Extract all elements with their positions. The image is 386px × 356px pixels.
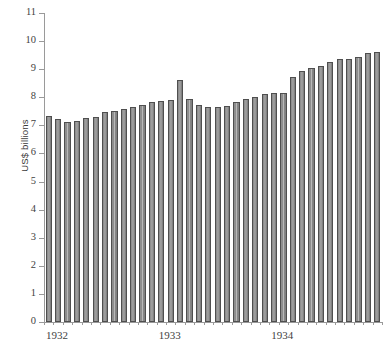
- bar: [55, 119, 61, 322]
- x-tick-label: 1934: [271, 329, 293, 341]
- x-tick-mark: [344, 322, 345, 325]
- x-tick-mark: [119, 322, 120, 325]
- bar: [215, 107, 221, 322]
- y-tick-label: 11: [8, 6, 36, 17]
- x-tick-mark: [166, 322, 167, 325]
- bar: [243, 99, 249, 322]
- x-tick-mark: [316, 322, 317, 325]
- bar: [374, 52, 380, 322]
- bar: [299, 71, 305, 322]
- x-tick-mark: [91, 322, 92, 325]
- y-tick-label: 8: [8, 90, 36, 101]
- x-tick-mark: [373, 322, 374, 325]
- y-tick-label: 3: [8, 231, 36, 242]
- bar: [196, 105, 202, 322]
- x-tick-mark: [354, 322, 355, 325]
- bar: [327, 62, 333, 322]
- bar: [46, 116, 52, 322]
- y-tick-mark: [39, 210, 44, 211]
- x-tick-mark: [288, 322, 289, 325]
- x-tick-mark: [194, 322, 195, 325]
- bar: [83, 118, 89, 323]
- bar: [252, 97, 258, 322]
- x-tick-mark: [260, 322, 261, 325]
- y-tick-mark: [39, 97, 44, 98]
- bar: [121, 109, 127, 322]
- y-tick-label: 5: [8, 175, 36, 186]
- x-tick-mark: [72, 322, 73, 325]
- y-tick-mark: [39, 266, 44, 267]
- x-tick-mark: [100, 322, 101, 325]
- y-tick-mark: [39, 153, 44, 154]
- x-tick-label: 1933: [159, 329, 181, 341]
- x-tick-mark: [138, 322, 139, 325]
- x-tick-mark: [175, 322, 176, 325]
- bar: [365, 53, 371, 322]
- y-tick-label: 6: [8, 146, 36, 157]
- chart-figure: US$ billions 01234567891011 193219331934: [0, 0, 386, 356]
- y-tick-mark: [39, 182, 44, 183]
- bar: [233, 102, 239, 322]
- bar: [111, 111, 117, 322]
- bar: [74, 121, 80, 322]
- y-tick-label: 7: [8, 118, 36, 129]
- y-tick-mark: [39, 238, 44, 239]
- bar: [262, 94, 268, 322]
- bar: [130, 107, 136, 322]
- bar: [224, 106, 230, 322]
- x-tick-mark: [129, 322, 130, 325]
- y-tick-mark: [39, 13, 44, 14]
- bar: [308, 68, 314, 322]
- bar: [158, 101, 164, 322]
- x-tick-mark: [53, 322, 54, 325]
- x-tick-mark: [82, 322, 83, 325]
- x-tick-mark: [44, 322, 45, 325]
- y-tick-label: 9: [8, 62, 36, 73]
- x-tick-mark: [204, 322, 205, 325]
- x-tick-mark: [241, 322, 242, 325]
- bar: [290, 77, 296, 322]
- x-tick-mark: [326, 322, 327, 325]
- x-tick-mark: [213, 322, 214, 325]
- bar: [346, 59, 352, 322]
- x-tick-mark: [269, 322, 270, 325]
- x-tick-mark: [157, 322, 158, 325]
- x-tick-mark: [335, 322, 336, 325]
- bar: [139, 105, 145, 322]
- x-tick-mark: [307, 322, 308, 325]
- y-tick-label: 0: [8, 315, 36, 326]
- y-tick-mark: [39, 41, 44, 42]
- y-tick-label: 10: [8, 34, 36, 45]
- x-tick-mark: [251, 322, 252, 325]
- x-tick-mark: [298, 322, 299, 325]
- y-tick-label: 2: [8, 259, 36, 270]
- x-tick-mark: [363, 322, 364, 325]
- bar: [168, 100, 174, 322]
- x-tick-mark: [110, 322, 111, 325]
- bar: [102, 112, 108, 322]
- x-tick-mark: [232, 322, 233, 325]
- x-tick-label: 1932: [46, 329, 68, 341]
- bar: [177, 80, 183, 322]
- x-tick-mark: [222, 322, 223, 325]
- bar: [318, 66, 324, 322]
- x-tick-mark: [279, 322, 280, 325]
- y-tick-label: 4: [8, 203, 36, 214]
- bar: [205, 107, 211, 322]
- plot-area: 01234567891011 193219331934: [44, 13, 382, 322]
- y-tick-mark: [39, 69, 44, 70]
- bar: [186, 99, 192, 322]
- bar: [93, 117, 99, 322]
- x-tick-mark: [382, 322, 383, 325]
- bar: [337, 59, 343, 322]
- bar: [64, 122, 70, 322]
- x-tick-mark: [185, 322, 186, 325]
- bar: [280, 93, 286, 322]
- y-tick-mark: [39, 294, 44, 295]
- bar: [271, 93, 277, 322]
- bar: [355, 57, 361, 322]
- y-tick-mark: [39, 125, 44, 126]
- x-tick-mark: [147, 322, 148, 325]
- x-tick-mark: [63, 322, 64, 325]
- bar: [149, 102, 155, 323]
